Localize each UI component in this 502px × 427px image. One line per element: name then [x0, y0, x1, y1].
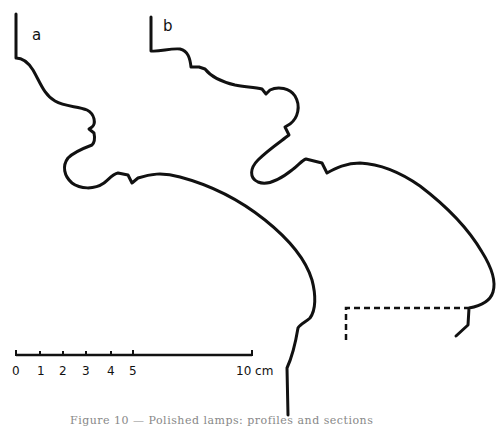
scale-end-label: 10 cm — [236, 364, 273, 378]
scale-bar: 0 1 2 3 4 5 10 cm — [12, 350, 273, 378]
scale-tick-1: 1 — [37, 364, 45, 378]
profile-b-outline — [151, 17, 494, 336]
scale-tick-5: 5 — [129, 364, 137, 378]
figure-caption: Figure 10 — Polished lamps: profiles and… — [70, 414, 450, 427]
scale-tick-0: 0 — [12, 364, 20, 378]
panel-label-b: b — [163, 17, 173, 35]
scale-tick-4: 4 — [107, 364, 115, 378]
scale-tick-2: 2 — [59, 364, 67, 378]
profile-b: b — [151, 17, 494, 340]
reconstruction-dashed-line — [346, 308, 468, 340]
scale-tick-3: 3 — [82, 364, 90, 378]
panel-label-a: a — [32, 26, 41, 44]
